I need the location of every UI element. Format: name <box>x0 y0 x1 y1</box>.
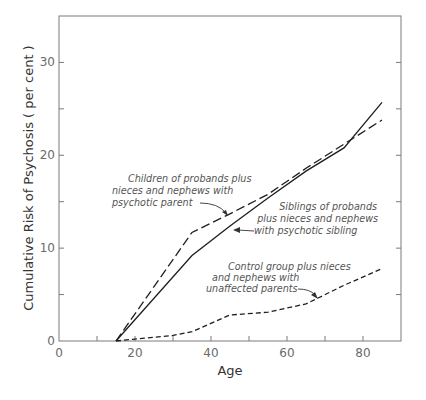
annotation-control-line-2: and nephews with <box>212 272 299 283</box>
annotation-siblings-line-3: with psychotic sibling <box>254 225 357 236</box>
x-axis-title: Age <box>217 363 242 378</box>
x-tick-label: 20 <box>127 346 142 360</box>
y-axis-title: Cumulative Risk of Psychosis ( per cent … <box>21 45 36 310</box>
x-axis-tick-labels: 020406080 <box>55 346 370 360</box>
annotation-siblings: Siblings of probands plus nieces and nep… <box>233 201 378 236</box>
annotation-children-line-2: nieces and nephews with <box>112 185 233 196</box>
annotation-children: Children of probands plus nieces and nep… <box>111 173 251 216</box>
annotation-control-line-3: unaffected parents <box>206 283 298 294</box>
annotation-children-line-1: Children of probands plus <box>128 173 251 184</box>
arrowhead-children-icon <box>222 210 228 216</box>
chart-canvas: 020406080 0102030 Age Cumulative Risk of… <box>0 0 426 400</box>
arrowhead-siblings-icon <box>233 227 240 233</box>
x-axis-ticks <box>97 336 363 341</box>
arrow-children-icon <box>200 203 226 213</box>
annotation-siblings-line-1: Siblings of probands <box>279 201 377 212</box>
y-tick-label: 0 <box>47 334 55 348</box>
x-tick-label: 60 <box>279 346 294 360</box>
x-tick-label: 0 <box>55 346 63 360</box>
y-tick-label: 30 <box>40 55 55 69</box>
y-axis-tick-labels: 0102030 <box>40 55 55 348</box>
arrow-siblings-icon <box>238 230 254 231</box>
arrowhead-control-icon <box>311 292 318 299</box>
annotation-control-line-1: Control group plus nieces <box>228 261 351 272</box>
annotation-siblings-line-2: plus nieces and nephews <box>256 213 378 224</box>
x-tick-label: 80 <box>355 346 370 360</box>
y-tick-label: 20 <box>40 148 55 162</box>
y-tick-label: 10 <box>40 241 55 255</box>
x-tick-label: 40 <box>203 346 218 360</box>
annotation-children-line-3: psychotic parent <box>111 197 194 208</box>
